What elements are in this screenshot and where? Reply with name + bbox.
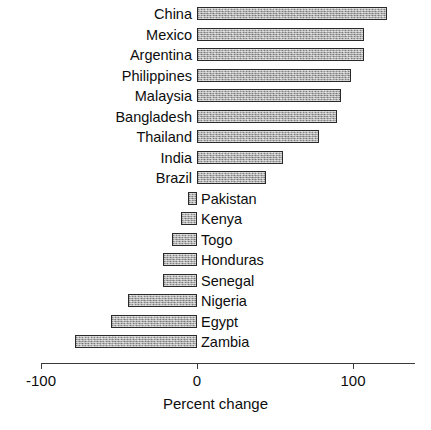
bar-row: Egypt xyxy=(0,312,431,333)
bar-thailand xyxy=(197,130,319,143)
bar-row: Senegal xyxy=(0,271,431,292)
bar-row: China xyxy=(0,4,431,25)
bar-mexico xyxy=(197,28,364,41)
bar-row: Mexico xyxy=(0,25,431,46)
bar-row: Nigeria xyxy=(0,291,431,312)
bar-china xyxy=(197,7,387,20)
bar-pakistan xyxy=(188,192,197,205)
category-label-india: India xyxy=(0,149,192,167)
category-label-malaysia: Malaysia xyxy=(0,87,192,105)
bar-nigeria xyxy=(128,294,197,307)
bar-egypt xyxy=(111,315,197,328)
category-label-togo: Togo xyxy=(201,231,431,249)
bar-row: Pakistan xyxy=(0,189,431,210)
bar-togo xyxy=(172,233,197,246)
bar-row: Malaysia xyxy=(0,86,431,107)
x-tick-0 xyxy=(197,363,198,369)
category-label-egypt: Egypt xyxy=(201,313,431,331)
category-label-argentina: Argentina xyxy=(0,46,192,64)
category-label-zambia: Zambia xyxy=(201,333,431,351)
bar-zambia xyxy=(75,335,197,348)
x-axis-line xyxy=(41,363,415,364)
bar-row: Bangladesh xyxy=(0,107,431,128)
plot-area: ChinaMexicoArgentinaPhilippinesMalaysiaB… xyxy=(0,0,431,365)
bar-malaysia xyxy=(197,89,341,102)
category-label-nigeria: Nigeria xyxy=(201,292,431,310)
bar-bangladesh xyxy=(197,110,337,123)
bar-row: Brazil xyxy=(0,168,431,189)
bar-india xyxy=(197,151,283,164)
bar-row: India xyxy=(0,148,431,169)
category-label-thailand: Thailand xyxy=(0,128,192,146)
category-label-honduras: Honduras xyxy=(201,251,431,269)
x-axis-title: Percent change xyxy=(0,395,431,413)
bar-brazil xyxy=(197,171,266,184)
category-label-kenya: Kenya xyxy=(201,210,431,228)
bar-row: Philippines xyxy=(0,66,431,87)
bar-row: Argentina xyxy=(0,45,431,66)
x-tick-label-neg100: -100 xyxy=(1,372,81,389)
bar-kenya xyxy=(181,212,197,225)
category-label-philippines: Philippines xyxy=(0,67,192,85)
x-tick-label-100: 100 xyxy=(313,372,393,389)
x-tick-100 xyxy=(353,363,354,369)
category-label-senegal: Senegal xyxy=(201,272,431,290)
category-label-mexico: Mexico xyxy=(0,26,192,44)
bar-honduras xyxy=(163,253,197,266)
category-label-china: China xyxy=(0,5,192,23)
bar-argentina xyxy=(197,48,364,61)
bar-senegal xyxy=(163,274,197,287)
x-tick-label-0: 0 xyxy=(157,372,237,389)
bar-chart: ChinaMexicoArgentinaPhilippinesMalaysiaB… xyxy=(0,0,431,430)
category-label-brazil: Brazil xyxy=(0,169,192,187)
bar-row: Kenya xyxy=(0,209,431,230)
category-label-bangladesh: Bangladesh xyxy=(0,108,192,126)
bar-row: Togo xyxy=(0,230,431,251)
bar-row: Thailand xyxy=(0,127,431,148)
bar-row: Honduras xyxy=(0,250,431,271)
bar-philippines xyxy=(197,69,351,82)
x-tick-neg100 xyxy=(41,363,42,369)
bar-row: Zambia xyxy=(0,332,431,353)
category-label-pakistan: Pakistan xyxy=(201,190,431,208)
